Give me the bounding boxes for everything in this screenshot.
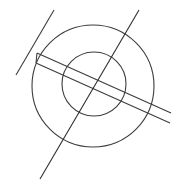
geometric-line-drawing: [0, 0, 176, 184]
canvas-background: [0, 0, 176, 184]
